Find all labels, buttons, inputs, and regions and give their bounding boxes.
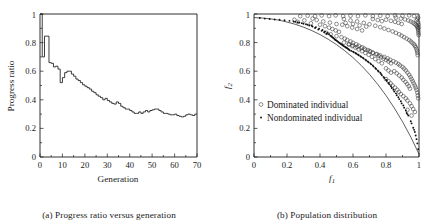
scatter-point-dominated [362,21,366,25]
x-tick-label-a-4: 40 [125,160,134,170]
scatter-point-nondominated [398,98,400,100]
scatter-point-nondominated [393,91,395,93]
y-tick-label-b-2: 0.4 [239,95,250,105]
legend-marker-dominated-icon [259,103,263,107]
scatter-point-nondominated [355,52,357,54]
y-ticks-b [254,14,258,157]
scatter-point-dominated [400,22,404,26]
scatter-point-dominated [406,19,410,23]
scatter-point-dominated [321,20,325,24]
scatter-point-nondominated [411,122,413,124]
scatter-point-nondominated [347,48,349,50]
scatter-point-nondominated [415,135,417,137]
scatter-point-dominated [383,27,387,31]
y-tick-labels-a: 0 0.2 0.4 0.6 0.8 1 [25,10,36,163]
scatter-point-nondominated [388,83,390,85]
scatter-point-dominated [386,14,390,18]
x-tick-label-b-5: 1 [417,160,421,170]
x-tick-label-a-0: 0 [38,160,42,170]
x-tick-label-b-4: 0.8 [381,160,392,170]
scatter-point-nondominated [314,27,316,29]
progress-ratio-chart: 0 0.2 0.4 0.6 0.8 1 [0,0,218,196]
scatter-point-dominated [368,22,372,26]
scatter-point-dominated [328,21,332,25]
scatter-point-dominated [364,25,368,29]
scatter-point-dominated [387,28,391,32]
scatter-point-dominated [345,24,349,28]
caption-panel-b: (b) Population distribution [218,210,436,220]
scatter-point-nondominated [403,107,405,109]
scatter-point-dominated [360,29,364,33]
panel-progress-ratio: 0 0.2 0.4 0.6 0.8 1 [0,0,218,224]
y-tick-labels-b: 0 0.2 0.4 0.6 0.8 1 [239,10,250,163]
scatter-point-nondominated [269,18,271,20]
scatter-point-dominated [337,30,341,34]
x-tick-label-b-1: 0.2 [282,160,293,170]
scatter-point-nondominated [307,24,309,26]
legend-marker-nondominated-icon [260,117,262,119]
x-tick-label-a-6: 60 [170,160,179,170]
figure-container: 0 0.2 0.4 0.6 0.8 1 [0,0,437,224]
y-tick-label-a-4: 0.8 [25,38,36,48]
scatter-point-dominated [335,22,339,26]
scatter-point-nondominated [274,18,276,20]
scatter-point-nondominated [362,57,364,59]
scatter-point-dominated [376,18,380,22]
scatter-point-dominated [351,22,355,26]
scatter-point-nondominated [341,43,343,45]
scatter-point-nondominated [350,50,352,52]
axes-panel-a [40,14,197,157]
scatter-point-nondominated [308,24,310,26]
progress-ratio-step-line [40,14,197,117]
scatter-point-dominated [413,84,417,88]
scatter-point-nondominated [289,20,291,22]
scatter-point-nondominated [407,113,409,115]
caption-panel-a: (a) Progress ratio versus generation [0,210,218,220]
scatter-point-dominated [315,18,319,22]
scatter-point-dominated [355,27,359,31]
scatter-point-dominated [410,77,414,81]
scatter-point-dominated [409,75,413,79]
x-tick-label-b-3: 0.6 [348,160,359,170]
scatter-point-dominated [318,23,322,27]
legend-panel-b: Dominated individual Nondominated indivi… [259,100,363,123]
legend-label-dominated: Dominated individual [267,100,349,110]
scatter-point-dominated [389,19,393,23]
x-tick-labels-a: 0 10 20 30 40 50 60 70 [38,160,201,170]
scatter-point-nondominated [345,47,347,49]
scatter-point-nondominated [369,62,371,64]
scatter-point-dominated [412,82,416,86]
scatter-point-nondominated [342,45,344,47]
scatter-point-dominated [414,86,418,90]
scatter-point-nondominated [379,72,381,74]
legend-label-nondominated: Nondominated individual [267,113,363,123]
y-tick-label-b-4: 0.8 [239,38,250,48]
y-axis-title-b-sub: 2 [226,82,233,86]
y-axis-title-b: f2 [222,82,233,89]
scatter-point-dominated [377,59,381,63]
scatter-point-dominated [356,14,360,18]
scatter-point-nondominated [352,51,354,53]
scatter-point-nondominated [264,18,266,20]
scatter-point-nondominated [413,129,415,131]
scatter-point-dominated [397,74,401,78]
scatter-point-dominated [355,20,359,24]
scatter-point-nondominated [374,67,376,69]
scatter-point-nondominated [405,110,407,112]
scatter-point-dominated [413,110,417,114]
y-tick-label-b-5: 1 [246,10,250,20]
y-tick-label-b-3: 0.6 [239,66,250,76]
scatter-point-nondominated [293,20,295,22]
scatter-point-nondominated [416,142,418,144]
scatter-point-nondominated [297,21,299,23]
scatter-point-nondominated [381,74,383,76]
scatter-point-dominated [335,34,339,38]
scatter-point-dominated [399,92,403,96]
scatter-point-nondominated [259,17,261,19]
scatter-point-dominated [323,24,327,28]
scatter-point-dominated [358,24,362,28]
x-axis-title-a: Generation [98,174,139,184]
svg-text:f2: f2 [222,82,233,89]
scatter-point-nondominated [332,37,334,39]
scatter-point-nondominated [414,131,416,133]
